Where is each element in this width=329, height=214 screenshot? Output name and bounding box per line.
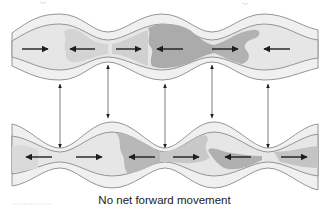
segmentation-diagram: [0, 0, 329, 214]
diagram-caption: No net forward movement: [0, 194, 329, 206]
bottom-chyme-medium-1: [12, 145, 38, 172]
top-intestine-segment: [12, 14, 318, 80]
cropped-text-remnant: [40, 2, 248, 5]
